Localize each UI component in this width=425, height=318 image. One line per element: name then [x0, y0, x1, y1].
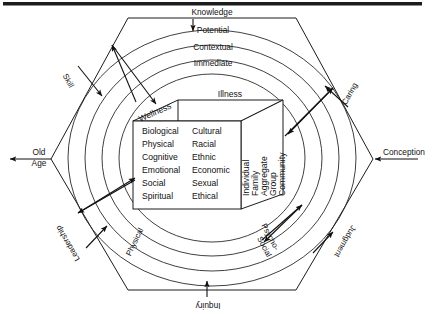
arrow-skill-edge	[78, 66, 102, 96]
label-skill: Skill	[61, 72, 76, 89]
arrow-judgment-edge	[313, 232, 333, 253]
cube-item-cultural: Cultural	[192, 126, 222, 136]
cube-item-sexual: Sexual	[192, 178, 218, 188]
cube-item-economic: Economic	[192, 165, 230, 175]
label-potential: Potential	[197, 25, 229, 35]
arrow-skill-inward	[112, 45, 156, 104]
model-diagram-svg: Knowledge Potential Contextual Immediate…	[0, 0, 425, 318]
cube-item-ethical: Ethical	[192, 191, 218, 201]
label-old-age-line1: Old	[33, 147, 46, 157]
cube-item-physical: Physical	[142, 139, 174, 149]
cube-item-biological: Biological	[142, 126, 179, 136]
cube-item-spiritual: Spiritual	[142, 191, 173, 201]
arrow-caring-inward	[288, 88, 333, 134]
arrow-leadership-edge	[86, 226, 107, 248]
label-contextual: Contextual	[193, 42, 233, 52]
label-illness: Illness	[218, 89, 242, 99]
cube-item-social: Social	[142, 178, 165, 188]
arrow-leadership-inward	[78, 178, 135, 213]
label-inquiry: Inquiry	[195, 301, 221, 311]
cube-item-racial: Racial	[192, 139, 216, 149]
label-caring: Caring	[340, 81, 359, 106]
arrow-skill-outward	[112, 45, 136, 102]
label-knowledge: Knowledge	[191, 7, 232, 17]
cube-item-cognitive: Cognitive	[142, 152, 178, 162]
diagram-canvas: Knowledge Potential Contextual Immediate…	[0, 0, 425, 318]
label-old-age-line2: Age	[32, 158, 47, 168]
label-immediate: Immediate	[194, 58, 233, 68]
label-leadership: Leadership	[54, 223, 82, 262]
cube-item-ethnic: Ethnic	[192, 152, 217, 162]
label-conception: Conception	[383, 147, 425, 157]
cube-item-emotional: Emotional	[142, 165, 180, 175]
cube-side-community: Community	[277, 152, 287, 196]
label-judgment: Judgment	[332, 224, 358, 260]
